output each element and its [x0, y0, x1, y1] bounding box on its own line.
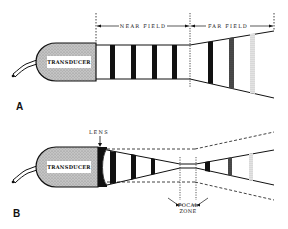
cable-a [13, 60, 37, 77]
cable-end-a [12, 75, 15, 78]
panel-a-label: A [16, 101, 23, 112]
near-field-wavefronts [110, 45, 177, 79]
far-field-label: FAR FIELD [208, 23, 248, 29]
focal-zone-label-line2: ZONE [179, 208, 196, 214]
transducer-label-b: TRANSDUCER [47, 164, 91, 170]
panel-a: TRANSDUCER NEAR FIELD [12, 13, 274, 112]
transducer-label-a: TRANSDUCER [47, 59, 91, 65]
cable-end-b [12, 181, 15, 184]
ultrasound-beam-diagram: TRANSDUCER NEAR FIELD [0, 0, 288, 229]
panel-b: TRANSDUCER LENS [12, 129, 274, 219]
cable-b [13, 166, 37, 183]
panel-b-label: B [13, 208, 20, 219]
near-field-label: NEAR FIELD [120, 23, 166, 29]
lens-label: LENS [89, 129, 109, 135]
focused-beam-top-converge [107, 150, 180, 164]
focused-beam-bottom-converge [107, 168, 180, 185]
